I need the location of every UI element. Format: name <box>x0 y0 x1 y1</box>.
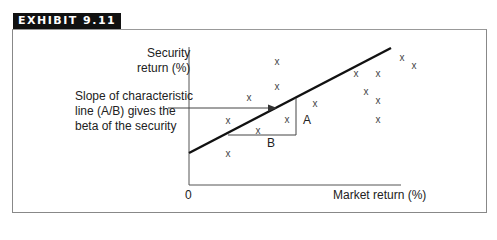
run-label: B <box>267 136 275 151</box>
data-point: x <box>376 68 381 79</box>
data-point: x <box>226 148 231 159</box>
data-point: x <box>354 68 359 79</box>
annotation-line1: Slope of characteristic <box>75 89 193 104</box>
characteristic-line <box>189 48 391 153</box>
data-point: x <box>256 125 261 136</box>
annotation-line2: line (A/B) gives the <box>75 104 193 119</box>
data-point: x <box>400 52 405 63</box>
data-point: x <box>285 114 290 125</box>
data-point: x <box>226 115 231 126</box>
data-point: x <box>376 95 381 106</box>
y-axis-label: Security return (%) <box>137 46 190 76</box>
data-point: x <box>275 81 280 92</box>
rise-label: A <box>303 113 311 128</box>
slope-annotation: Slope of characteristic line (A/B) gives… <box>75 89 193 134</box>
data-point: x <box>247 92 252 103</box>
y-axis-label-line1: Security <box>137 46 190 61</box>
data-point: x <box>364 86 369 97</box>
data-point: x <box>412 60 417 71</box>
y-axis-label-line2: return (%) <box>137 61 190 76</box>
data-point: x <box>313 98 318 109</box>
data-point: x <box>376 114 381 125</box>
annotation-line3: beta of the security <box>75 119 193 134</box>
origin-label: 0 <box>185 188 192 203</box>
x-axis-label: Market return (%) <box>333 188 426 203</box>
scatter-points: xxxxxxxxxxxxxxx <box>226 52 417 159</box>
data-point: x <box>275 56 280 67</box>
